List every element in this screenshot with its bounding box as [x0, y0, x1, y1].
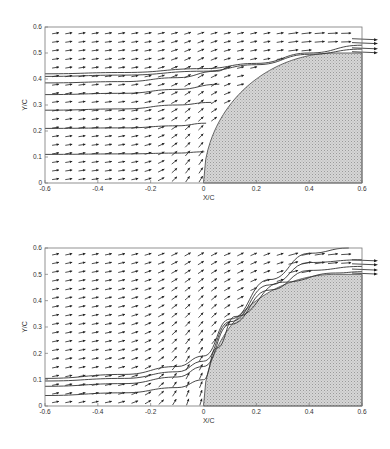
y-tick-label: 0.5 — [33, 49, 42, 56]
y-tick-label: 0.6 — [33, 23, 42, 30]
x-tick-label: 0 — [202, 185, 206, 192]
y-tick-label: 0.3 — [33, 323, 42, 330]
x-tick-label: 0.6 — [357, 185, 366, 192]
body-shape — [204, 53, 363, 183]
x-tick-label: -0.4 — [92, 185, 104, 192]
x-tick-label: 0.2 — [252, 408, 261, 415]
body-shape — [204, 274, 363, 406]
y-tick-label: 0.3 — [33, 101, 42, 108]
y-tick-label: 0.5 — [33, 271, 42, 278]
bottom-quiver-plot: -0.6-0.4-0.200.20.40.600.10.20.30.40.50.… — [21, 244, 378, 424]
y-tick-label: 0.2 — [33, 127, 42, 134]
x-tick-label: 0.6 — [357, 408, 366, 415]
flow-field-figure: -0.6-0.4-0.200.20.40.600.10.20.30.40.50.… — [0, 0, 390, 449]
x-axis-label: X/C — [203, 417, 215, 424]
x-tick-label: 0.2 — [252, 185, 261, 192]
y-tick-label: 0.6 — [33, 244, 42, 251]
y-tick-label: 0 — [38, 179, 42, 186]
y-axis-label: Y/C — [21, 99, 28, 111]
y-tick-label: 0.4 — [33, 75, 42, 82]
x-tick-label: 0.4 — [305, 408, 314, 415]
x-tick-label: -0.2 — [145, 408, 157, 415]
x-axis-label: X/C — [203, 194, 215, 201]
y-tick-label: 0.2 — [33, 350, 42, 357]
y-tick-label: 0 — [38, 402, 42, 409]
y-tick-label: 0.1 — [33, 376, 42, 383]
y-axis-label: Y/C — [21, 321, 28, 333]
top-quiver-plot: -0.6-0.4-0.200.20.40.600.10.20.30.40.50.… — [21, 23, 378, 201]
streamline — [45, 102, 211, 110]
x-tick-label: -0.2 — [145, 185, 157, 192]
x-tick-label: 0.4 — [305, 185, 314, 192]
x-tick-label: 0 — [202, 408, 206, 415]
x-tick-label: -0.4 — [92, 408, 104, 415]
y-tick-label: 0.4 — [33, 297, 42, 304]
y-tick-label: 0.1 — [33, 153, 42, 160]
